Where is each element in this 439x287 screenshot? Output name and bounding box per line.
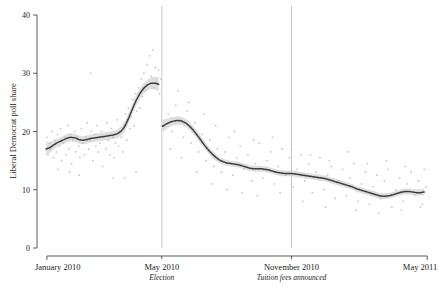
poll-point bbox=[88, 148, 90, 150]
poll-point bbox=[177, 90, 179, 92]
poll-point bbox=[186, 110, 188, 112]
poll-point bbox=[215, 125, 217, 127]
poll-point bbox=[72, 139, 74, 141]
poll-point bbox=[404, 166, 406, 168]
poll-point bbox=[107, 139, 109, 141]
poll-point bbox=[334, 198, 336, 200]
poll-point bbox=[201, 134, 203, 136]
y-tick-label: 40 bbox=[22, 11, 30, 20]
poll-point bbox=[81, 128, 83, 130]
poll-share-chart: 010203040 Liberal Democrat poll share Ja… bbox=[0, 0, 439, 287]
poll-point bbox=[425, 186, 427, 188]
x-tick-label: January 2010 bbox=[35, 262, 81, 272]
poll-point bbox=[423, 168, 425, 170]
poll-point bbox=[243, 168, 245, 170]
poll-point bbox=[159, 93, 161, 95]
poll-point bbox=[145, 90, 147, 92]
poll-point bbox=[296, 168, 298, 170]
poll-point bbox=[347, 151, 349, 153]
poll-point bbox=[84, 154, 86, 156]
poll-point bbox=[420, 206, 422, 208]
poll-point bbox=[142, 96, 144, 98]
poll-point bbox=[368, 203, 370, 205]
poll-point bbox=[376, 174, 378, 176]
poll-point bbox=[319, 157, 321, 159]
x-tick-label: May 2011 bbox=[403, 262, 437, 272]
poll-point bbox=[357, 201, 359, 203]
poll-point bbox=[136, 110, 138, 112]
poll-point bbox=[95, 145, 97, 147]
poll-point bbox=[256, 195, 258, 197]
poll-point bbox=[310, 154, 312, 156]
poll-point bbox=[378, 212, 380, 214]
poll-point bbox=[361, 183, 363, 185]
poll-point bbox=[153, 87, 155, 89]
poll-point bbox=[140, 78, 142, 80]
poll-point bbox=[224, 151, 226, 153]
poll-point bbox=[49, 142, 51, 144]
poll-point bbox=[167, 113, 169, 115]
poll-point bbox=[421, 203, 423, 205]
poll-point bbox=[57, 134, 59, 136]
poll-point bbox=[211, 183, 213, 185]
poll-point bbox=[385, 160, 387, 162]
poll-point bbox=[349, 177, 351, 179]
poll-point bbox=[78, 174, 80, 176]
poll-point bbox=[85, 136, 87, 138]
poll-point bbox=[217, 148, 219, 150]
poll-point bbox=[101, 131, 103, 133]
poll-point bbox=[366, 163, 368, 165]
poll-point bbox=[93, 134, 95, 136]
poll-point bbox=[325, 206, 327, 208]
poll-point bbox=[399, 177, 401, 179]
poll-point bbox=[82, 142, 84, 144]
poll-point bbox=[194, 122, 196, 124]
poll-point bbox=[365, 171, 367, 173]
poll-point bbox=[414, 195, 416, 197]
poll-point bbox=[401, 209, 403, 211]
poll-point bbox=[327, 174, 329, 176]
poll-point bbox=[236, 157, 238, 159]
poll-point bbox=[209, 139, 211, 141]
poll-point bbox=[52, 157, 54, 159]
poll-point bbox=[272, 136, 274, 138]
x-annotation-label: Election bbox=[148, 273, 174, 282]
poll-point bbox=[74, 131, 76, 133]
poll-point bbox=[232, 174, 234, 176]
poll-point bbox=[110, 128, 112, 130]
poll-point bbox=[118, 145, 120, 147]
poll-point bbox=[181, 157, 183, 159]
poll-point bbox=[285, 174, 287, 176]
poll-point bbox=[62, 142, 64, 144]
poll-point bbox=[89, 139, 91, 141]
poll-point bbox=[133, 125, 135, 127]
poll-point bbox=[135, 171, 137, 173]
poll-point bbox=[69, 171, 71, 173]
poll-point bbox=[124, 177, 126, 179]
poll-point bbox=[139, 107, 141, 109]
poll-point bbox=[86, 122, 88, 124]
poll-point bbox=[116, 119, 118, 121]
poll-point bbox=[109, 154, 111, 156]
poll-point bbox=[90, 72, 92, 74]
poll-point bbox=[387, 168, 389, 170]
x-annotation-label: Tuition fees announced bbox=[257, 273, 327, 282]
poll-point bbox=[380, 198, 382, 200]
poll-point bbox=[274, 183, 276, 185]
poll-point bbox=[70, 134, 72, 136]
poll-point bbox=[149, 55, 151, 57]
poll-point bbox=[372, 186, 374, 188]
y-tick-label: 20 bbox=[22, 128, 30, 137]
poll-point bbox=[105, 148, 107, 150]
poll-point bbox=[292, 186, 294, 188]
poll-point bbox=[342, 168, 344, 170]
poll-point bbox=[239, 145, 241, 147]
poll-point bbox=[54, 139, 56, 141]
poll-point bbox=[406, 183, 408, 185]
poll-point bbox=[113, 157, 115, 159]
poll-point bbox=[302, 201, 304, 203]
poll-point bbox=[143, 72, 145, 74]
poll-point bbox=[315, 171, 317, 173]
poll-point bbox=[291, 148, 293, 150]
y-tick-label: 10 bbox=[22, 186, 30, 195]
